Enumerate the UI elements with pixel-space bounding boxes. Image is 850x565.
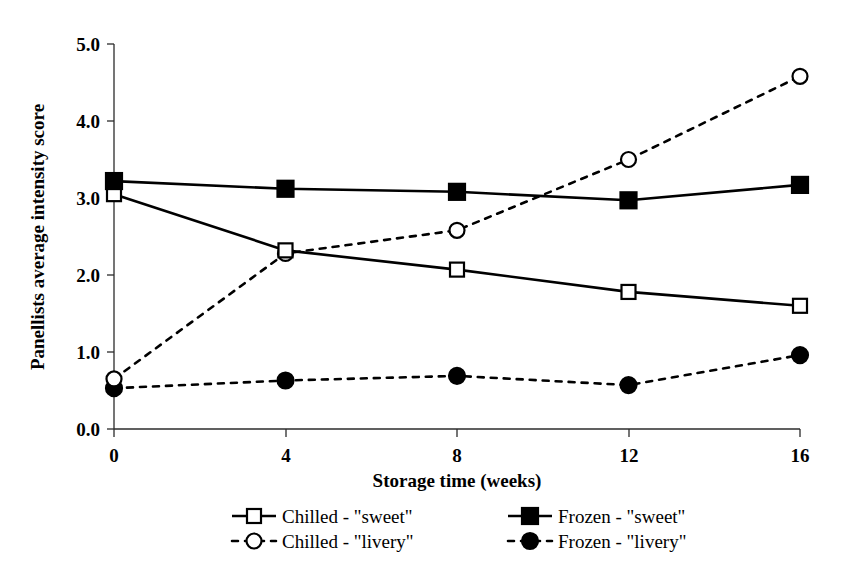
data-point-marker [449, 184, 465, 200]
data-point-marker [793, 69, 808, 84]
x-tick-label-8: 8 [452, 445, 462, 466]
y-axis-title: Panellists average intensity score [27, 104, 48, 370]
data-point-marker [278, 181, 294, 197]
data-point-marker [106, 173, 122, 189]
x-tick-label-16: 16 [791, 445, 810, 466]
data-point-marker [278, 372, 294, 388]
data-point-marker [792, 177, 808, 193]
x-tick-label-0: 0 [109, 445, 119, 466]
y-tick-label-4: 4.0 [76, 111, 100, 132]
legend-marker-icon [522, 533, 538, 549]
y-tick-label-5: 5.0 [76, 34, 100, 55]
data-point-marker [621, 152, 636, 167]
x-tick-label-12: 12 [620, 445, 639, 466]
data-point-marker [793, 299, 807, 313]
x-axis-title: Storage time (weeks) [373, 470, 542, 492]
legend-label: Chilled - "sweet" [282, 506, 413, 527]
chart-figure: 5.0 4.0 3.0 2.0 1.0 0.0 0 4 8 12 16 Stor… [0, 0, 850, 565]
y-tick-label-1: 1.0 [76, 342, 100, 363]
data-point-marker [279, 243, 293, 257]
y-tick-label-2: 2.0 [76, 265, 100, 286]
data-point-marker [450, 223, 465, 238]
data-point-marker [621, 377, 637, 393]
legend-label: Frozen - "livery" [558, 531, 686, 552]
data-point-marker [107, 371, 122, 386]
data-point-marker [622, 285, 636, 299]
legend-label: Frozen - "sweet" [558, 506, 685, 527]
y-tick-label-0: 0.0 [76, 419, 100, 440]
y-tick-label-3: 3.0 [76, 188, 100, 209]
legend-entry[interactable]: Frozen - "sweet" [508, 506, 685, 527]
data-point-marker [621, 192, 637, 208]
data-point-marker [792, 347, 808, 363]
legend-marker-icon [247, 509, 261, 523]
legend-label: Chilled - "livery" [282, 531, 414, 552]
x-tick-label-4: 4 [281, 445, 291, 466]
legend-marker-icon [247, 534, 262, 549]
data-point-marker [449, 368, 465, 384]
legend-entry[interactable]: Chilled - "sweet" [232, 506, 413, 527]
line-chart: 5.0 4.0 3.0 2.0 1.0 0.0 0 4 8 12 16 Stor… [0, 0, 850, 565]
data-point-marker [450, 263, 464, 277]
legend-marker-icon [522, 508, 538, 524]
